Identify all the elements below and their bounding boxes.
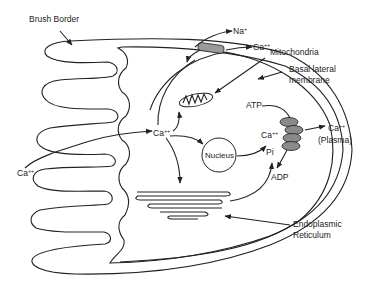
- na-ca-exchanger: [198, 42, 225, 54]
- ca-channel-curve: [158, 60, 195, 125]
- label-endoplasmic: Endoplasmic: [293, 219, 342, 229]
- basal-lateral-pointer: [258, 72, 282, 79]
- atp-pointer: [262, 106, 290, 119]
- label-ca-top: Ca++: [253, 42, 270, 52]
- label-na: Na+: [233, 26, 247, 36]
- label-atp: ATP: [246, 100, 262, 110]
- label-reticulum: Reticulum: [293, 230, 331, 240]
- ca-to-nucleus-arrow: [170, 136, 203, 144]
- ca-entry-arrow: [25, 131, 152, 168]
- enterocyte-calcium-transport-diagram: Brush Border Na+ Ca++ Mitochondria Basal…: [0, 0, 368, 293]
- ca-to-plasma-arrow: [305, 126, 325, 130]
- endoplasmic-reticulum: [136, 192, 230, 219]
- label-ca-plasma: Ca++: [328, 123, 345, 133]
- er-to-pi-arrow: [230, 163, 272, 201]
- label-ca-right: Ca++: [261, 130, 278, 140]
- label-adp: ADP: [271, 172, 289, 182]
- nucleus-to-pi-arrow: [237, 146, 266, 156]
- label-brush-border: Brush Border: [29, 14, 79, 24]
- label-membrane: membrane: [289, 75, 330, 85]
- label-mitochondria: Mitochondria: [270, 47, 319, 57]
- pump-to-adp-arrow: [277, 150, 287, 168]
- label-ca-left: Ca++: [17, 168, 34, 178]
- label-ca-center: Ca++: [153, 128, 170, 138]
- brush-border-pointer: [60, 31, 72, 45]
- mitochondria-pointer: [215, 58, 265, 93]
- mitochondrion: [178, 91, 214, 110]
- label-plasma: (Plasma): [318, 135, 352, 145]
- ca-to-er-arrow: [166, 138, 180, 183]
- label-pi: Pi: [266, 147, 274, 157]
- calcium-pumps: [280, 118, 303, 151]
- label-basal-lateral: Basal lateral: [289, 64, 336, 74]
- label-nucleus: Nucleus: [205, 151, 234, 160]
- ca-top-arrow: [226, 47, 252, 50]
- ca-to-mitochondria-arrow: [173, 112, 179, 131]
- er-pointer: [225, 216, 290, 225]
